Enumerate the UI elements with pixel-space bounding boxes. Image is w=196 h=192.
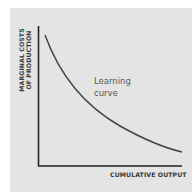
curve-annotation: Learning curve <box>94 75 131 99</box>
annotation-line-2: curve <box>94 87 131 99</box>
x-axis-label: CUMULATIVE OUTPUT <box>110 171 187 178</box>
y-axis-label: MARGINAL COSTS OF PRODUCTION <box>18 24 32 96</box>
y-axis-label-line-2: OF PRODUCTION <box>25 24 32 96</box>
annotation-line-1: Learning <box>94 75 131 87</box>
y-axis-label-line-1: MARGINAL COSTS <box>18 24 25 96</box>
